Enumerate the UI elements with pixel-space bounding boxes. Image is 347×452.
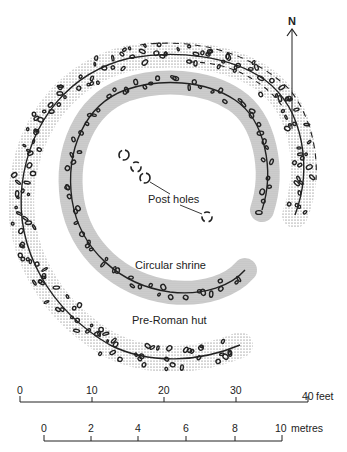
scale-feet-tick: 0 <box>17 384 23 396</box>
post-hole <box>202 212 212 222</box>
scale-bar-metres: 0 2 4 6 8 10 metres <box>41 422 323 441</box>
scale-metres-tick: 0 <box>41 422 47 434</box>
north-label: N <box>288 15 296 27</box>
scale-feet-tick: 20 <box>158 384 170 396</box>
scale-bar-feet: 0 10 20 30 40 feet <box>17 384 334 402</box>
post-hole <box>131 162 141 172</box>
post-holes <box>119 150 212 222</box>
scale-metres-tick: 6 <box>183 422 189 434</box>
scale-feet-unit: feet <box>316 390 334 402</box>
stone <box>258 92 263 98</box>
post-holes-label: Post holes <box>148 193 200 205</box>
site-plan: Post holes Circular shrine Pre-Roman hut… <box>0 0 347 452</box>
scale-metres-unit: metres <box>291 422 323 434</box>
scale-feet-tick: 30 <box>230 384 242 396</box>
scale-metres-tick: 10 <box>275 422 287 434</box>
post-hole <box>119 150 129 160</box>
post-holes-leader-2 <box>180 205 202 214</box>
scale-feet-tick: 40 <box>302 390 314 402</box>
scale-metres-tick: 8 <box>232 422 238 434</box>
stone <box>77 302 82 308</box>
scale-metres-tick: 2 <box>88 422 94 434</box>
post-hole <box>140 173 150 183</box>
scale-metres-tick: 4 <box>135 422 141 434</box>
scale-feet-tick: 10 <box>86 384 98 396</box>
pre-roman-hut-label: Pre-Roman hut <box>132 314 207 326</box>
circular-shrine-label: Circular shrine <box>135 259 206 271</box>
